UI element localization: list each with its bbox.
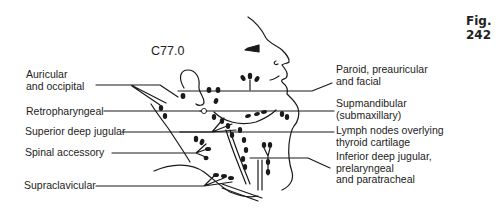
scm-line-2 <box>230 130 250 184</box>
shoulder-outline <box>154 165 258 197</box>
nostril-outline <box>274 61 278 65</box>
face-profile-outline <box>248 17 299 190</box>
leader-spinal-accessory <box>112 144 210 158</box>
retropharyngeal-node <box>201 108 206 113</box>
leader-auricular-occipital <box>96 85 178 105</box>
head-neck-lymph-node-illustration <box>0 0 504 217</box>
mouth-line <box>270 76 279 80</box>
ear-outline <box>181 70 204 105</box>
eye-mark <box>245 45 259 52</box>
leader-paroid-facial <box>178 83 332 91</box>
leader-superior-deep-jugular <box>122 118 236 132</box>
lymph-node-clusters <box>159 73 289 180</box>
